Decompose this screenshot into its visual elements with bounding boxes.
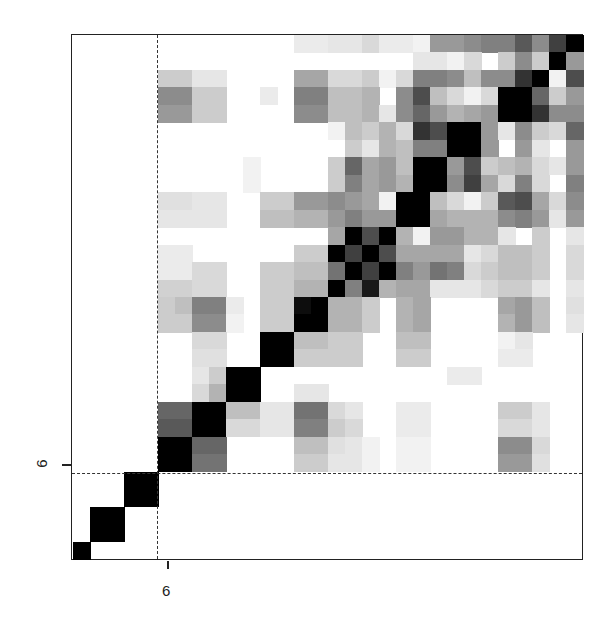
- heatmap-cell: [209, 105, 227, 123]
- heatmap-cell: [362, 87, 380, 105]
- heatmap-cell: [294, 35, 312, 53]
- heatmap-cell: [515, 454, 533, 472]
- heatmap-cell: [158, 419, 176, 437]
- heatmap-cell: [532, 454, 550, 472]
- heatmap-cell: [447, 157, 465, 175]
- heatmap-cell: [464, 70, 482, 88]
- heatmap-cell: [328, 70, 346, 88]
- heatmap-cell: [328, 402, 346, 420]
- heatmap-cell: [396, 437, 414, 455]
- heatmap-cell: [566, 210, 584, 228]
- heatmap-cell: [260, 262, 278, 280]
- heatmap-cell: [532, 402, 550, 420]
- plot-frame: [71, 34, 583, 560]
- heatmap-cell: [396, 175, 414, 193]
- heatmap-cell: [396, 227, 414, 245]
- heatmap-cell: [481, 122, 499, 140]
- heatmap-cell: [515, 262, 533, 280]
- heatmap-cell: [209, 262, 227, 280]
- heatmap-cell: [277, 210, 295, 228]
- heatmap-cell: [294, 349, 312, 367]
- heatmap-cell: [566, 245, 584, 263]
- heatmap-cell: [260, 419, 278, 437]
- heatmap-cell: [430, 35, 448, 53]
- x-axis-tick-label: 6: [162, 582, 170, 599]
- heatmap-cell: [396, 105, 414, 123]
- heatmap-cell: [175, 419, 193, 437]
- heatmap-cell: [311, 454, 329, 472]
- heatmap-cell: [498, 192, 516, 210]
- heatmap-cell: [515, 140, 533, 158]
- heatmap-cell: [498, 35, 516, 53]
- heatmap-cell: [464, 52, 482, 70]
- heatmap-cell: [413, 402, 431, 420]
- heatmap-cell: [515, 192, 533, 210]
- heatmap-cell: [481, 262, 499, 280]
- heatmap-cell: [515, 122, 533, 140]
- y-axis-tick-label: 6: [33, 459, 50, 467]
- heatmap-cell: [549, 52, 567, 70]
- heatmap-cell: [413, 245, 431, 263]
- heatmap-cell: [260, 210, 278, 228]
- heatmap-cell: [532, 122, 550, 140]
- heatmap-cell: [447, 140, 465, 158]
- heatmap-cell: [294, 402, 312, 420]
- heatmap-cell: [515, 210, 533, 228]
- heatmap-cell: [345, 419, 363, 437]
- heatmap-cell: [532, 140, 550, 158]
- heatmap-cell: [294, 87, 312, 105]
- heatmap-cell: [311, 384, 329, 402]
- heatmap-cell: [532, 314, 550, 332]
- heatmap-cell: [311, 192, 329, 210]
- heatmap-cell: [447, 367, 465, 385]
- heatmap-cell: [362, 297, 380, 315]
- heatmap-cell: [362, 262, 380, 280]
- heatmap-cell: [141, 472, 159, 490]
- heatmap-cell: [328, 210, 346, 228]
- heatmap-cell: [532, 297, 550, 315]
- heatmap-cell: [566, 35, 584, 53]
- heatmap-cell: [311, 402, 329, 420]
- heatmap-cell: [175, 192, 193, 210]
- heatmap-cell: [549, 157, 567, 175]
- heatmap-cell: [141, 489, 159, 507]
- heatmap-cell: [464, 280, 482, 298]
- heatmap-cell: [430, 227, 448, 245]
- heatmap-cell: [226, 314, 244, 332]
- heatmap-cell: [498, 105, 516, 123]
- heatmap-cell: [379, 157, 397, 175]
- heatmap-cell: [226, 419, 244, 437]
- heatmap-cell: [243, 419, 261, 437]
- heatmap-cell: [209, 70, 227, 88]
- heatmap-cell: [175, 454, 193, 472]
- heatmap-cell: [328, 175, 346, 193]
- heatmap-cell: [362, 245, 380, 263]
- heatmap-cell: [345, 349, 363, 367]
- heatmap-cell: [515, 70, 533, 88]
- heatmap-cell: [532, 157, 550, 175]
- heatmap-cell: [430, 70, 448, 88]
- heatmap-cell: [515, 437, 533, 455]
- heatmap-cell: [328, 419, 346, 437]
- heatmap-cell: [175, 245, 193, 263]
- heatmap-cell: [447, 87, 465, 105]
- heatmap-cell: [158, 70, 176, 88]
- heatmap-cell: [243, 175, 261, 193]
- heatmap-cell: [396, 245, 414, 263]
- heatmap-cell: [447, 35, 465, 53]
- heatmap-cell: [260, 87, 278, 105]
- heatmap-cell: [192, 384, 210, 402]
- heatmap-cell: [158, 280, 176, 298]
- heatmap-cell: [447, 245, 465, 263]
- heatmap-cell: [532, 35, 550, 53]
- heatmap-cell: [260, 332, 278, 350]
- heatmap-cell: [447, 52, 465, 70]
- heatmap-cell: [311, 70, 329, 88]
- heatmap-cell: [396, 332, 414, 350]
- heatmap-cell: [345, 105, 363, 123]
- heatmap-cell: [362, 122, 380, 140]
- heatmap-cell: [226, 402, 244, 420]
- heatmap-cell: [107, 507, 125, 525]
- heatmap-cell: [362, 157, 380, 175]
- heatmap-cell: [311, 419, 329, 437]
